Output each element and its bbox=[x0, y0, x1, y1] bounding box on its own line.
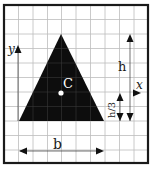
y-axis-arrow-icon bbox=[15, 45, 22, 53]
height-third-label: h/3 bbox=[106, 102, 117, 118]
height-label: h bbox=[118, 59, 127, 74]
x-axis-label: x bbox=[136, 78, 143, 92]
height-third-arrow-up-icon bbox=[117, 93, 124, 101]
height-arrow-down-icon bbox=[127, 113, 134, 121]
y-axis-label: y bbox=[7, 42, 15, 56]
centroid-label: C bbox=[63, 76, 73, 91]
height-arrow-up-icon bbox=[127, 34, 134, 42]
y-axis: y bbox=[7, 42, 22, 121]
triangle-centroid-diagram: C y x h h/3 b bbox=[0, 0, 154, 172]
centroid-dot bbox=[58, 90, 63, 95]
base-arrow-right-icon bbox=[96, 148, 104, 155]
base-dimension: b bbox=[19, 136, 104, 155]
base-arrow-left-icon bbox=[19, 148, 27, 155]
base-label: b bbox=[53, 136, 62, 152]
x-axis: x bbox=[133, 78, 143, 97]
height-third-arrow-down-icon bbox=[117, 113, 124, 121]
height-third-dimension: h/3 bbox=[106, 93, 124, 121]
